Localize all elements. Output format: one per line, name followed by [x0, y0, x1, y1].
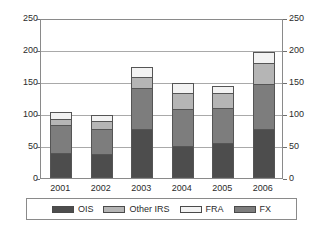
legend-label: OIS: [78, 205, 94, 214]
x-axis-tick-label-2001: 2001: [40, 183, 80, 193]
bar-group-2002: [91, 20, 113, 178]
y-axis-right-tick-label-150: 150: [289, 78, 319, 87]
y-axis-left-tick-label-50: 50: [8, 142, 38, 151]
x-axis-tick-label-2002: 2002: [81, 183, 121, 193]
bar-segment-2006-ois: [253, 129, 275, 178]
bar-segment-2005-other-irs: [212, 93, 234, 108]
y-axis-left-tick-label-150: 150: [8, 78, 38, 87]
bar-group-2006: [253, 20, 275, 178]
y-axis-right-tick-mark-150: [283, 83, 287, 84]
legend-label: Other IRS: [129, 205, 169, 214]
y-axis-right-tick-mark-200: [283, 51, 287, 52]
bar-segment-2002-fx: [91, 129, 113, 154]
bar-segment-2004-fx: [172, 109, 194, 146]
y-axis-right-tick-label-100: 100: [289, 110, 319, 119]
y-axis-right-tick-label-200: 200: [289, 46, 319, 55]
x-axis-tick-label-2006: 2006: [243, 183, 283, 193]
bar-segment-2005-ois: [212, 143, 234, 178]
y-axis-left-tick-label-0: 0: [8, 174, 38, 183]
y-axis-left-tick-mark-0: [36, 179, 40, 180]
bar-segment-2002-fra: [91, 115, 113, 121]
y-axis-right-tick-mark-100: [283, 115, 287, 116]
y-axis-right-tick-label-250: 250: [289, 14, 319, 23]
bar-segment-2004-fra: [172, 83, 194, 92]
bar-segment-2004-other-irs: [172, 93, 194, 109]
x-axis-tick-label-2005: 2005: [202, 183, 242, 193]
chart-legend: OISOther IRSFRAFX: [26, 198, 297, 220]
y-axis-left-tick-label-200: 200: [8, 46, 38, 55]
bars-layer: [41, 20, 282, 178]
legend-swatch-icon: [52, 206, 74, 213]
bar-segment-2004-ois: [172, 146, 194, 178]
bar-segment-2003-ois: [131, 129, 153, 178]
x-axis-tick-label-2004: 2004: [162, 183, 202, 193]
legend-item-fx[interactable]: FX: [234, 205, 272, 214]
bar-segment-2006-other-irs: [253, 63, 275, 84]
bar-segment-2001-other-irs: [50, 119, 72, 125]
legend-swatch-icon: [234, 206, 256, 213]
bar-segment-2003-fx: [131, 88, 153, 128]
bar-segment-2001-fra: [50, 112, 72, 119]
bar-segment-2001-ois: [50, 153, 72, 178]
y-axis-left-tick-label-250: 250: [8, 14, 38, 23]
legend-item-ois[interactable]: OIS: [52, 205, 94, 214]
bar-segment-2006-fra: [253, 52, 275, 63]
legend-label: FRA: [206, 205, 224, 214]
y-axis-right-tick-label-50: 50: [289, 142, 319, 151]
legend-swatch-icon: [180, 206, 202, 213]
legend-item-other-irs[interactable]: Other IRS: [103, 205, 169, 214]
bar-segment-2001-fx: [50, 125, 72, 153]
bar-segment-2003-other-irs: [131, 77, 153, 88]
bar-group-2001: [50, 20, 72, 178]
y-axis-right-tick-mark-250: [283, 19, 287, 20]
legend-swatch-icon: [103, 206, 125, 213]
bar-segment-2005-fra: [212, 86, 234, 93]
bar-segment-2003-fra: [131, 67, 153, 76]
bar-segment-2005-fx: [212, 108, 234, 143]
bar-segment-2006-fx: [253, 84, 275, 129]
bar-group-2005: [212, 20, 234, 178]
legend-item-fra[interactable]: FRA: [180, 205, 224, 214]
legend-label: FX: [260, 205, 272, 214]
bar-group-2004: [172, 20, 194, 178]
y-axis-right-tick-mark-0: [283, 179, 287, 180]
stacked-bar-chart: 005050100100150150200200250250 200120022…: [0, 0, 323, 228]
y-axis-left-tick-label-100: 100: [8, 110, 38, 119]
bar-segment-2002-ois: [91, 154, 113, 178]
x-axis-tick-label-2003: 2003: [121, 183, 161, 193]
bar-segment-2002-other-irs: [91, 121, 113, 129]
y-axis-right-tick-mark-50: [283, 147, 287, 148]
bar-group-2003: [131, 20, 153, 178]
y-axis-right-tick-label-0: 0: [289, 174, 319, 183]
